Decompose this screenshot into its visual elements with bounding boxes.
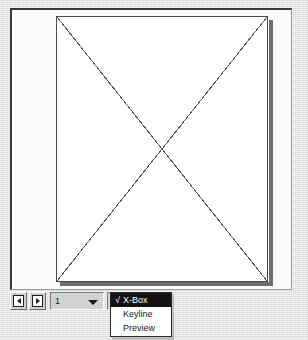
prev-page-button[interactable] [10, 292, 27, 310]
page-shadow-right [269, 20, 273, 286]
checkmark-icon: √ [113, 293, 122, 307]
document-canvas[interactable] [10, 8, 292, 290]
chevron-down-icon[interactable] [88, 300, 98, 305]
menu-item-label: Keyline [122, 307, 153, 321]
previous-page-icon [13, 295, 24, 307]
view-mode-menu[interactable]: √ X-Box Keyline Preview [110, 292, 172, 337]
next-page-icon [32, 295, 43, 307]
application-window: 1 X- √ X-Box Keyline Preview [0, 0, 308, 340]
page-shadow-bottom [60, 282, 273, 286]
menu-item-x-box[interactable]: √ X-Box [111, 293, 171, 307]
page-number-combobox[interactable]: 1 [50, 292, 104, 310]
menu-item-label: Preview [122, 321, 155, 335]
menu-item-label: X-Box [122, 293, 148, 307]
menu-item-keyline[interactable]: Keyline [111, 307, 171, 321]
menu-item-preview[interactable]: Preview [111, 321, 171, 335]
next-page-button[interactable] [29, 292, 46, 310]
page-number-value: 1 [51, 293, 60, 309]
x-box-placeholder-icon [56, 16, 268, 282]
